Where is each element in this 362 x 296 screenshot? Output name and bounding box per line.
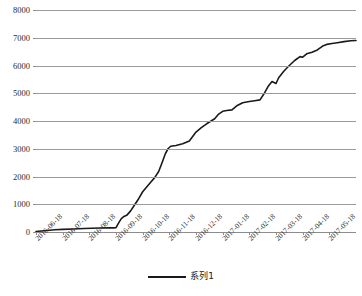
y-axis-label-7000: 7000 bbox=[0, 34, 30, 43]
y-axis-label-3000: 3000 bbox=[0, 145, 30, 154]
gridline-6000 bbox=[36, 66, 356, 67]
y-axis-label-2000: 2000 bbox=[0, 173, 30, 182]
y-axis-label-0: 0 bbox=[0, 228, 30, 237]
y-tick-1000 bbox=[33, 204, 36, 205]
y-tick-8000 bbox=[33, 10, 36, 11]
y-tick-3000 bbox=[33, 149, 36, 150]
y-axis-label-4000: 4000 bbox=[0, 117, 30, 126]
legend-label-series-1: 系列1 bbox=[190, 272, 214, 281]
y-axis-label-5000: 5000 bbox=[0, 89, 30, 98]
y-tick-2000 bbox=[33, 177, 36, 178]
gridline-1000 bbox=[36, 204, 356, 205]
line-chart: 010002000300040005000600070008000 2016-0… bbox=[0, 0, 362, 296]
gridline-5000 bbox=[36, 93, 356, 94]
gridline-8000 bbox=[36, 10, 356, 11]
y-tick-6000 bbox=[33, 66, 36, 67]
y-axis-label-8000: 8000 bbox=[0, 6, 30, 15]
gridline-3000 bbox=[36, 149, 356, 150]
series-1-line-swatch bbox=[148, 276, 186, 278]
y-tick-7000 bbox=[33, 38, 36, 39]
gridline-4000 bbox=[36, 121, 356, 122]
chart-legend: 系列1 bbox=[0, 272, 362, 281]
y-axis-label-6000: 6000 bbox=[0, 62, 30, 71]
gridline-2000 bbox=[36, 177, 356, 178]
gridline-7000 bbox=[36, 38, 356, 39]
y-axis-label-1000: 1000 bbox=[0, 200, 30, 209]
y-tick-5000 bbox=[33, 93, 36, 94]
y-tick-4000 bbox=[33, 121, 36, 122]
